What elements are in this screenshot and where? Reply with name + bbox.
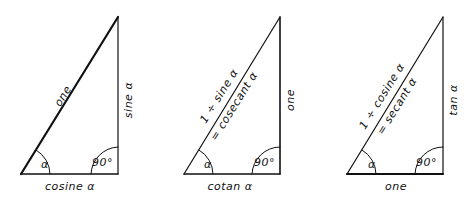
right-angle-label: 90° [92,156,113,169]
opposite-label: tan α [447,84,460,116]
right-angle-label: 90° [416,156,437,169]
adjacent-label: cotan α [207,180,252,193]
adjacent-label: cosine α [45,180,95,193]
triangle-secant-tan: α 90° 1 ÷ cosine α = secant α tan α one [347,17,460,193]
triangle-sine-cosine: α 90° one sine α cosine α [21,17,135,193]
hypotenuse-label: one [52,83,75,109]
opposite-label: sine α [122,82,135,119]
angle-label: α [41,158,49,171]
right-angle-label: 90° [254,156,275,169]
angle-label: α [204,158,212,171]
angle-label: α [368,158,376,171]
trig-triangles-diagram: α 90° one sine α cosine α α 90° 1 ÷ sine… [0,0,475,201]
adjacent-label: one [385,180,407,193]
triangle-cosecant-cotan: α 90° 1 ÷ sine α = cosecant α one cotan … [184,17,297,193]
opposite-label: one [284,89,297,111]
